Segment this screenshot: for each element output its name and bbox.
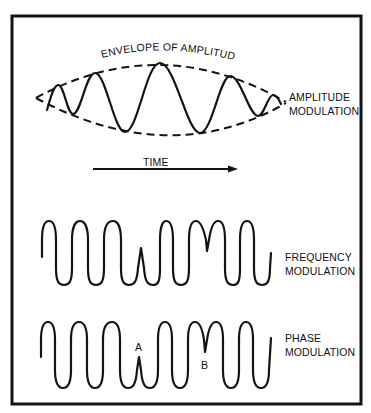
- pm-waveform: [41, 322, 271, 388]
- fm-label-line1: FREQUENCY: [285, 250, 352, 264]
- envelope-upper: [36, 65, 286, 102]
- pm-label-line1: PHASE: [285, 331, 321, 345]
- am-label-line2: MODULATION: [289, 104, 359, 118]
- arrow-head-icon: [228, 166, 238, 173]
- pm-label-line2: MODULATION: [285, 345, 355, 359]
- fm-waveform: [42, 221, 271, 285]
- time-label: TIME: [143, 155, 168, 169]
- modulation-diagram: ENVELOPE OF AMPLITUDE AMPLITUDE MODULATI…: [0, 0, 371, 413]
- fm-label-line2: MODULATION: [285, 264, 355, 278]
- pm-marker-b: B: [201, 358, 208, 372]
- am-waveform: [47, 63, 281, 133]
- am-label-line1: AMPLITUDE: [289, 90, 350, 104]
- amplitude-modulation-figure: ENVELOPE OF AMPLITUDE: [0, 0, 286, 135]
- pm-marker-a: A: [135, 340, 142, 354]
- envelope-label: ENVELOPE OF AMPLITUDE: [0, 0, 237, 62]
